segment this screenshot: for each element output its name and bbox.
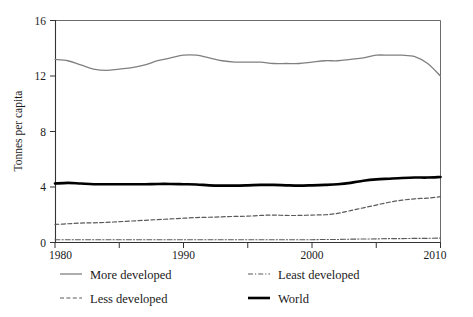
legend-label-more-developed: More developed [90,268,172,282]
chart-figure: 0481216 1980199020002010 Tonnes per capi… [0,0,473,317]
series-line-less-developed [55,197,441,225]
x-tick-label: 2000 [301,249,324,261]
line-chart-svg: 0481216 1980199020002010 Tonnes per capi… [0,0,473,317]
series-line-world [55,177,441,186]
x-axis-tick-labels: 1980199020002010 [49,249,447,261]
x-axis-ticks [55,243,441,249]
data-series-group [55,55,441,240]
x-tick-label: 2010 [424,249,447,261]
x-tick-label: 1980 [49,249,72,261]
legend-label-world: World [278,292,310,306]
y-tick-label: 12 [35,70,47,82]
y-tick-label: 16 [35,15,47,27]
y-axis-title: Tonnes per capita [12,91,25,172]
y-axis-ticks [50,21,55,243]
x-tick-label: 1990 [172,249,195,261]
chart-legend: More developedLeast developedLess develo… [60,268,360,306]
series-line-more-developed [55,55,441,76]
y-tick-label: 8 [40,126,46,138]
y-tick-label: 4 [40,181,46,193]
y-axis-tick-labels: 0481216 [35,15,47,249]
series-line-least-developed [55,238,441,240]
legend-label-less-developed: Less developed [90,292,168,306]
plot-frame [55,20,441,243]
legend-label-least-developed: Least developed [278,268,360,282]
y-tick-label: 0 [40,237,46,249]
